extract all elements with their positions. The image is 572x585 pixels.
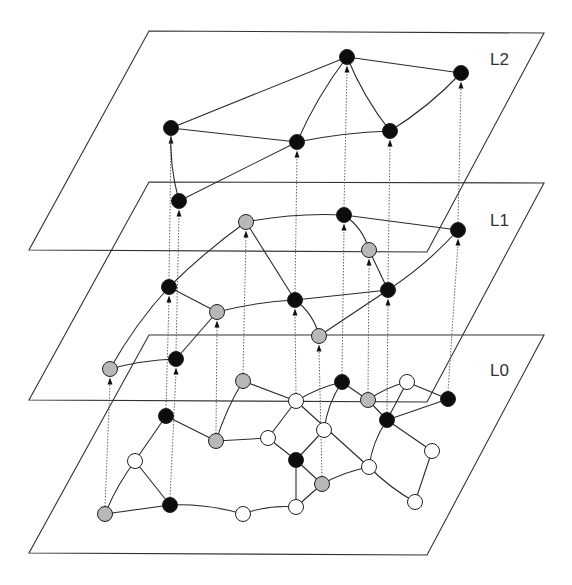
arrowhead-icon bbox=[174, 368, 179, 375]
node-white bbox=[236, 507, 251, 522]
graph-edge bbox=[179, 142, 297, 201]
node-white bbox=[289, 500, 304, 515]
graph-edge bbox=[415, 451, 432, 502]
node-gray bbox=[210, 305, 225, 320]
projection-link bbox=[176, 215, 179, 352]
graph-edge bbox=[110, 287, 169, 369]
arrowhead-icon bbox=[367, 259, 372, 266]
graph-edge bbox=[347, 57, 390, 131]
level-labels: L2 L1 L0 bbox=[490, 50, 509, 380]
arrowhead-icon bbox=[215, 321, 220, 328]
graph-edge bbox=[135, 416, 166, 461]
graph-edge bbox=[169, 222, 246, 287]
node-black bbox=[383, 124, 398, 139]
graph-edge bbox=[388, 230, 458, 290]
node-gray bbox=[312, 329, 327, 344]
node-white bbox=[400, 375, 415, 390]
arrowhead-icon bbox=[317, 345, 322, 352]
node-black bbox=[289, 453, 304, 468]
projection-link bbox=[295, 156, 297, 293]
graph-edge bbox=[169, 287, 217, 312]
node-black bbox=[290, 135, 305, 150]
graph-edge bbox=[110, 359, 176, 369]
node-black bbox=[380, 413, 395, 428]
graph-edge bbox=[344, 215, 458, 230]
node-black bbox=[337, 208, 352, 223]
graph-edge bbox=[135, 461, 170, 505]
graph-edge bbox=[170, 505, 243, 514]
node-white bbox=[408, 495, 423, 510]
node-black bbox=[288, 293, 303, 308]
projection-link bbox=[319, 350, 322, 477]
node-black bbox=[454, 66, 469, 81]
graph-edge bbox=[295, 290, 388, 300]
projection-link bbox=[368, 264, 369, 393]
node-gray bbox=[103, 362, 118, 377]
node-white bbox=[128, 454, 143, 469]
node-black bbox=[162, 280, 177, 295]
level-label-l1: L1 bbox=[490, 211, 509, 230]
graph-edge bbox=[216, 381, 243, 441]
node-white bbox=[317, 423, 332, 438]
graph-edge bbox=[105, 505, 170, 514]
arrowhead-icon bbox=[459, 82, 464, 89]
graph-edge bbox=[297, 131, 390, 142]
node-black bbox=[335, 375, 350, 390]
projection-link bbox=[387, 304, 388, 413]
projection-link bbox=[458, 87, 461, 223]
arrowhead-icon bbox=[388, 140, 393, 147]
node-gray bbox=[239, 215, 254, 230]
node-gray bbox=[209, 434, 224, 449]
graph-edge bbox=[171, 128, 179, 201]
node-gray bbox=[315, 477, 330, 492]
arrowhead-icon bbox=[456, 239, 461, 246]
node-black bbox=[159, 409, 174, 424]
graph-nodes bbox=[98, 50, 469, 522]
projection-link bbox=[448, 244, 458, 392]
node-black bbox=[169, 352, 184, 367]
node-gray bbox=[98, 507, 113, 522]
graph-edge bbox=[297, 57, 347, 142]
graph-edge bbox=[243, 381, 296, 401]
level-label-l0: L0 bbox=[490, 361, 509, 380]
level-label-l2: L2 bbox=[490, 50, 509, 69]
projection-link bbox=[342, 229, 344, 375]
projection-link bbox=[166, 301, 169, 409]
graph-edge bbox=[390, 73, 461, 131]
graph-edge bbox=[246, 214, 344, 222]
arrowhead-icon bbox=[167, 296, 172, 303]
arrowhead-icon bbox=[293, 309, 298, 316]
graph-edge bbox=[171, 128, 297, 142]
node-gray bbox=[362, 243, 377, 258]
node-black bbox=[381, 283, 396, 298]
graph-edge bbox=[347, 57, 461, 73]
node-white bbox=[289, 394, 304, 409]
node-white bbox=[362, 460, 377, 475]
projection-link bbox=[169, 142, 171, 280]
projection-link bbox=[344, 71, 347, 208]
arrowhead-icon bbox=[295, 151, 300, 158]
graph-edge bbox=[217, 300, 295, 312]
node-black bbox=[441, 392, 456, 407]
node-gray bbox=[361, 393, 376, 408]
node-black bbox=[164, 121, 179, 136]
node-black bbox=[163, 498, 178, 513]
arrowhead-icon bbox=[386, 299, 391, 306]
projection-link bbox=[216, 326, 217, 434]
graph-edge bbox=[369, 467, 415, 502]
node-black bbox=[340, 50, 355, 65]
graph-edges bbox=[105, 57, 461, 514]
graph-edge bbox=[296, 401, 369, 467]
graph-edge bbox=[246, 222, 295, 300]
graph-edge bbox=[105, 461, 135, 514]
hierarchy-diagram: L2 L1 L0 bbox=[0, 0, 572, 585]
arrowhead-icon bbox=[342, 224, 347, 231]
projection-link bbox=[105, 383, 110, 507]
graph-edge bbox=[319, 290, 388, 336]
graph-edge bbox=[171, 57, 347, 128]
node-gray bbox=[236, 374, 251, 389]
plane-l2 bbox=[29, 31, 544, 252]
node-black bbox=[451, 223, 466, 238]
arrowhead-icon bbox=[244, 231, 249, 238]
projection-link bbox=[295, 314, 296, 394]
